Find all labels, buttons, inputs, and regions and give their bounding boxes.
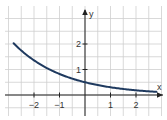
x-tick-label: −2 — [29, 100, 39, 110]
y-tick-label: 1 — [76, 65, 81, 75]
x-axis-arrow-icon — [157, 92, 163, 98]
tick-labels: −2−11212 — [29, 39, 139, 110]
y-tick-label: 2 — [76, 39, 81, 49]
x-tick-label: −1 — [54, 100, 64, 110]
x-tick-label: 1 — [108, 100, 113, 110]
y-axis-label: y — [89, 9, 94, 19]
y-axis-arrow-icon — [82, 9, 88, 15]
x-tick-label: 2 — [133, 100, 138, 110]
function-graph: x y −2−11212 — [0, 0, 167, 120]
x-axis-label: x — [157, 82, 162, 92]
